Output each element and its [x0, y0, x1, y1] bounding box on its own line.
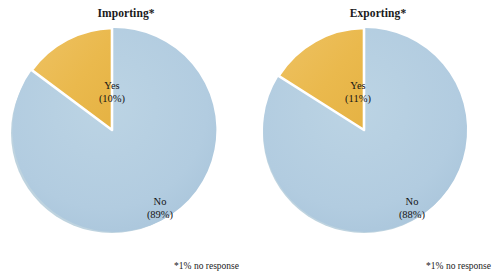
pie-label-yes-name-exporting: Yes	[350, 80, 365, 91]
pie-label-no-exporting: No (88%)	[382, 196, 442, 221]
pie-exporting: Yes (11%) No (88%)	[262, 28, 467, 233]
pie-importing: Yes (10%) No (89%)	[10, 28, 215, 233]
pie-chart-figure: Importing*	[0, 0, 504, 277]
chart-panel-importing: Importing*	[0, 0, 252, 277]
pie-label-no-name-importing: No	[154, 196, 167, 207]
pie-label-yes-pct-importing: (10%)	[84, 93, 140, 106]
chart-footnote-importing: *1% no response	[174, 261, 239, 271]
chart-title-exporting: Exporting*	[252, 6, 504, 20]
pie-label-yes-exporting: Yes (11%)	[330, 80, 386, 105]
pie-label-no-pct-exporting: (88%)	[382, 209, 442, 222]
pie-label-no-name-exporting: No	[406, 196, 419, 207]
pie-label-yes-pct-exporting: (11%)	[330, 93, 386, 106]
pie-label-no-pct-importing: (89%)	[130, 209, 190, 222]
pie-label-yes-name-importing: Yes	[104, 80, 119, 91]
pie-label-no-importing: No (89%)	[130, 196, 190, 221]
chart-panel-exporting: Exporting*	[252, 0, 504, 277]
chart-footnote-exporting: *1% no response	[426, 261, 491, 271]
pie-label-yes-importing: Yes (10%)	[84, 80, 140, 105]
chart-title-importing: Importing*	[0, 6, 252, 20]
